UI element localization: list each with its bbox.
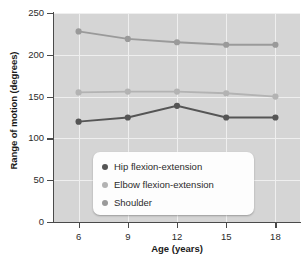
data-point [76,28,82,34]
legend-item: Elbow flexion-extension [102,179,214,190]
data-point [223,114,229,120]
series-hip-flexion-extension [76,103,279,125]
data-point [174,103,180,109]
series-elbow-flexion-extension [76,88,279,99]
data-point [174,39,180,45]
line-chart: 050100150200250 69121518 Range of motion… [0,0,307,262]
legend-item: Hip flexion-extension [102,161,202,172]
data-point [76,119,82,125]
legend-label: Hip flexion-extension [114,161,202,172]
data-series-layer [0,0,307,262]
data-point [272,94,278,100]
data-point [223,42,229,48]
data-point [272,42,278,48]
legend: Hip flexion-extensionElbow flexion-exten… [93,152,254,215]
data-point [174,88,180,94]
data-point [125,114,131,120]
data-point [76,89,82,95]
legend-marker-icon [102,182,108,188]
y-axis-label: Range of motion (degrees) [8,36,19,186]
legend-marker-icon [102,200,108,206]
legend-label: Shoulder [114,197,152,208]
data-point [125,88,131,94]
data-point [272,114,278,120]
x-axis-label: Age (years) [54,243,300,254]
data-point [223,90,229,96]
legend-item: Shoulder [102,197,152,208]
legend-marker-icon [102,164,108,170]
data-point [125,36,131,42]
series-shoulder [76,28,279,48]
legend-label: Elbow flexion-extension [114,179,214,190]
